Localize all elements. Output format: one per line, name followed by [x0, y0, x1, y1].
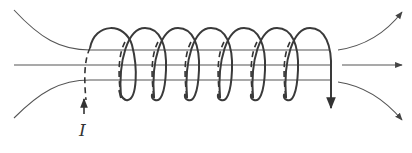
field-line-upper-right: [338, 12, 402, 50]
field-lines-right: [338, 12, 402, 120]
current-label: I: [79, 120, 86, 140]
coil-front-halves: [90, 28, 331, 108]
field-line-lower-left: [14, 80, 90, 118]
coil-turn-7-exit: [285, 28, 331, 108]
field-lines-left: [14, 10, 90, 118]
coil-turn-2: [120, 28, 166, 100]
solenoid-graphic: [0, 0, 412, 153]
field-line-upper-left: [14, 10, 90, 50]
solenoid-diagram: I: [0, 0, 412, 153]
field-line-lower-right: [338, 82, 402, 120]
